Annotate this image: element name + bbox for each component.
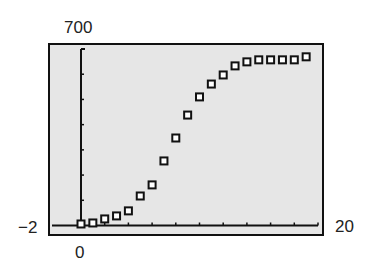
data-point [232, 62, 239, 69]
data-point [291, 56, 298, 63]
scatter-plot [0, 0, 380, 272]
data-point [208, 81, 215, 88]
data-point [267, 56, 274, 63]
data-point [160, 157, 167, 164]
data-point [220, 71, 227, 78]
data-point [149, 181, 156, 188]
data-point [279, 56, 286, 63]
data-point [184, 112, 191, 119]
data-point [196, 93, 203, 100]
data-point [303, 53, 310, 60]
data-point [172, 135, 179, 142]
data-point [243, 58, 250, 65]
data-point [125, 207, 132, 214]
data-point [137, 192, 144, 199]
data-point [101, 215, 108, 222]
data-point [113, 212, 120, 219]
data-point [89, 219, 96, 226]
data-point [255, 56, 262, 63]
data-point [78, 220, 85, 227]
